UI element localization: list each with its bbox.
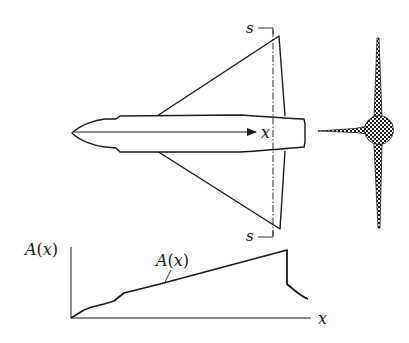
section-bracket-top	[258, 28, 273, 34]
wing-spike-horizontal	[318, 126, 368, 134]
section-label-bottom: s	[246, 227, 254, 245]
section-bracket-bottom	[258, 231, 273, 237]
area-curve	[71, 250, 308, 318]
curve-label: A(x)	[154, 251, 189, 270]
x-axis-label-planform: x	[261, 123, 270, 142]
fuselage	[72, 115, 305, 152]
cross-section	[318, 38, 394, 228]
upper-wing	[157, 36, 285, 116]
fuselage-section	[365, 116, 394, 145]
area-plot	[71, 247, 311, 318]
y-axis-label: A(x)	[23, 240, 58, 259]
lower-wing	[157, 151, 285, 229]
aircraft-planform	[72, 28, 305, 237]
curve-label-leader	[165, 270, 171, 282]
x-axis-label-plot: x	[318, 309, 327, 328]
section-label-top: s	[246, 19, 254, 37]
area-rule-diagram: x s s A(x) A(x) x	[0, 0, 409, 343]
